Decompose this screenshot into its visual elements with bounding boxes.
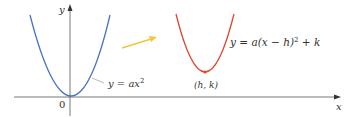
base-parabola-equation: y = ax2	[107, 77, 144, 89]
origin-label: 0	[59, 99, 65, 110]
y-axis-arrow-icon	[68, 4, 73, 11]
arrow-head-icon	[149, 36, 157, 42]
transformation-diagram: y x 0 y = ax2 (h, k) y = a(x − h)2 + k	[0, 0, 346, 117]
x-axis-label: x	[336, 101, 342, 112]
shifted-parabola-equation: y = a(x − h)2 + k	[229, 36, 320, 48]
shifted-parabola-curve	[176, 14, 234, 72]
y-axis-label: y	[58, 4, 65, 15]
vertex-point	[203, 70, 206, 73]
transformation-arrow	[122, 39, 151, 48]
vertex-label: (h, k)	[194, 80, 218, 90]
base-parabola-leader-line	[92, 78, 104, 83]
x-axis-arrow-icon	[334, 95, 341, 100]
